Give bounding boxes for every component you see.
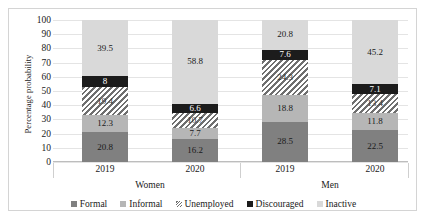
- bar-segment-unemployed[interactable]: 24.3: [262, 60, 308, 95]
- bar-segment-inactive[interactable]: 45.2: [352, 20, 398, 84]
- plot-area: 20.812.319.4839.516.27.710.76.658.828.51…: [53, 20, 408, 162]
- x-axis-year-label: 2019: [75, 164, 135, 174]
- legend-label: Inactive: [326, 199, 357, 209]
- legend-swatch-unemployed-icon: [176, 201, 182, 207]
- bar-segment-unemployed[interactable]: 19.4: [82, 87, 128, 115]
- legend-swatch-discouraged-icon: [247, 201, 253, 207]
- legend-item-inactive[interactable]: Inactive: [317, 199, 357, 209]
- segment-value-label: 10.7: [187, 116, 203, 125]
- segment-value-label: 28.5: [277, 137, 293, 146]
- bar-segment-inactive[interactable]: 20.8: [262, 20, 308, 50]
- bar-segment-informal[interactable]: 7.7: [172, 128, 218, 139]
- bar-segment-unemployed[interactable]: 10.7: [172, 113, 218, 128]
- x-axis-group-label: Men: [270, 180, 390, 190]
- bar-segment-discouraged[interactable]: 6.6: [172, 104, 218, 113]
- y-axis-tick: 80: [21, 43, 51, 53]
- bar-segment-unemployed[interactable]: 13.4: [352, 94, 398, 113]
- y-axis-tick: 100: [21, 15, 51, 25]
- group-separator: [240, 163, 241, 178]
- segment-value-label: 58.8: [187, 57, 203, 66]
- y-axis-tick: 60: [21, 72, 51, 82]
- bar-segment-inactive[interactable]: 39.5: [82, 20, 128, 76]
- segment-value-label: 45.2: [367, 48, 383, 57]
- bar-segment-informal[interactable]: 12.3: [82, 115, 128, 132]
- segment-value-label: 11.8: [367, 117, 382, 126]
- segment-value-label: 19.4: [97, 97, 113, 106]
- group-separator: [53, 163, 54, 178]
- chart-legend: FormalInformalUnemployedDiscouragedInact…: [9, 197, 418, 211]
- segment-value-label: 16.2: [187, 146, 203, 155]
- legend-label: Formal: [80, 199, 107, 209]
- y-axis-tick: 10: [21, 143, 51, 153]
- y-axis-tick-labels: 0102030405060708090100: [21, 20, 51, 162]
- legend-swatch-informal-icon: [120, 201, 126, 207]
- bar-segment-formal[interactable]: 20.8: [82, 132, 128, 162]
- segment-value-label: 13.4: [367, 99, 383, 108]
- segment-value-label: 8: [102, 77, 109, 86]
- bar-men-2020[interactable]: 22.511.813.47.145.2: [352, 20, 398, 162]
- bar-segment-inactive[interactable]: 58.8: [172, 20, 218, 103]
- legend-label: Discouraged: [256, 199, 304, 209]
- legend-item-informal[interactable]: Informal: [120, 199, 162, 209]
- y-axis-tick: 40: [21, 100, 51, 110]
- group-separator: [408, 163, 409, 178]
- segment-value-label: 12.3: [97, 119, 113, 128]
- segment-value-label: 20.8: [97, 143, 113, 152]
- legend-swatch-inactive-icon: [317, 201, 323, 207]
- segment-value-label: 7.1: [368, 85, 381, 94]
- x-axis-year-label: 2019: [255, 164, 315, 174]
- bar-women-2019[interactable]: 20.812.319.4839.5: [82, 20, 128, 162]
- y-axis-tick: 20: [21, 129, 51, 139]
- x-axis-year-label: 2020: [345, 164, 405, 174]
- segment-value-label: 24.3: [277, 73, 293, 82]
- bar-segment-formal[interactable]: 22.5: [352, 130, 398, 162]
- chart-container: Percentage probability 01020304050607080…: [8, 8, 417, 211]
- segment-value-label: 18.8: [277, 104, 293, 113]
- bar-segment-informal[interactable]: 18.8: [262, 95, 308, 122]
- x-axis-year-label: 2020: [165, 164, 225, 174]
- y-axis-tick: 70: [21, 58, 51, 68]
- y-axis-tick: 0: [21, 157, 51, 167]
- bar-segment-discouraged[interactable]: 8: [82, 76, 128, 87]
- category-axis: 2019202020192020WomenMen: [53, 163, 408, 197]
- bar-segment-informal[interactable]: 11.8: [352, 113, 398, 130]
- bar-segment-discouraged[interactable]: 7.6: [262, 50, 308, 61]
- x-axis-group-label: Women: [90, 180, 210, 190]
- bar-segment-discouraged[interactable]: 7.1: [352, 84, 398, 94]
- bar-women-2020[interactable]: 16.27.710.76.658.8: [172, 20, 218, 162]
- y-axis-tick: 30: [21, 114, 51, 124]
- legend-item-discouraged[interactable]: Discouraged: [247, 199, 304, 209]
- segment-value-label: 7.6: [278, 50, 291, 59]
- bar-men-2019[interactable]: 28.518.824.37.620.8: [262, 20, 308, 162]
- bar-segment-formal[interactable]: 28.5: [262, 122, 308, 162]
- legend-label: Unemployed: [185, 199, 234, 209]
- legend-label: Informal: [129, 199, 162, 209]
- legend-item-formal[interactable]: Formal: [71, 199, 107, 209]
- legend-item-unemployed[interactable]: Unemployed: [176, 199, 234, 209]
- bar-segment-formal[interactable]: 16.2: [172, 139, 218, 162]
- y-axis-tick: 90: [21, 29, 51, 39]
- segment-value-label: 22.5: [367, 142, 383, 151]
- y-axis-tick: 50: [21, 86, 51, 96]
- segment-value-label: 39.5: [97, 44, 113, 53]
- legend-swatch-formal-icon: [71, 201, 77, 207]
- segment-value-label: 20.8: [277, 30, 293, 39]
- segment-value-label: 6.6: [188, 104, 201, 113]
- segment-value-label: 7.7: [189, 129, 200, 138]
